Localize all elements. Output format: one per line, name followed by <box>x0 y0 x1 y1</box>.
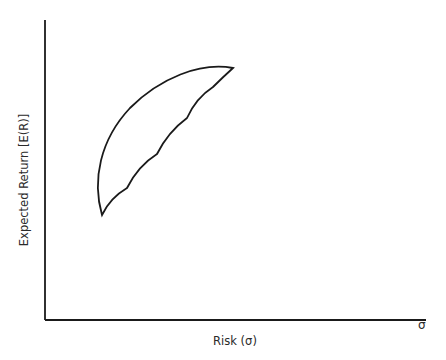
chart-canvas <box>0 0 446 360</box>
x-axis-end-label: σ <box>418 318 426 332</box>
y-axis-label: Expected Return [E(R)] <box>17 114 31 246</box>
feasible-set-region <box>98 67 233 215</box>
x-axis-label: Risk (σ) <box>213 334 257 348</box>
